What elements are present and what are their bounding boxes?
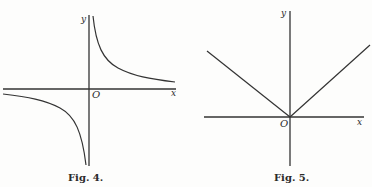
figures-canvas: y O x Fig. 4. y O x Fig. 5. — [0, 0, 372, 187]
fig4-origin-label: O — [92, 89, 100, 100]
fig5-x-label: x — [357, 117, 362, 127]
fig4-x-label: x — [171, 88, 176, 98]
fig5-line-left — [207, 51, 290, 117]
fig5-origin-label: O — [280, 118, 288, 129]
figure-4: y O x Fig. 4. — [3, 14, 176, 183]
fig4-curve-branch-negative — [3, 94, 86, 165]
fig5-line-right — [290, 45, 370, 117]
fig4-caption: Fig. 4. — [68, 172, 103, 183]
fig5-caption: Fig. 5. — [274, 172, 309, 183]
fig5-y-label: y — [280, 8, 287, 18]
fig4-y-label: y — [80, 14, 87, 24]
fig4-curve-branch-positive — [93, 16, 175, 82]
figure-5: y O x Fig. 5. — [204, 8, 370, 183]
book-page: y O x Fig. 4. y O x Fig. 5. — [0, 0, 372, 187]
